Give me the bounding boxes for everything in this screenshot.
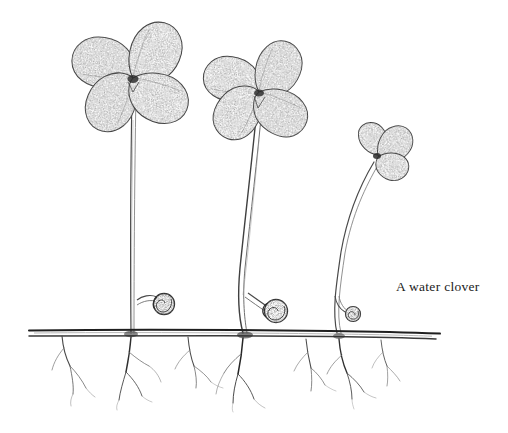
rhizome bbox=[29, 330, 440, 339]
root-cluster-6 bbox=[327, 339, 376, 409]
plant-large bbox=[66, 13, 197, 333]
plant-medium-leaf bbox=[198, 33, 316, 148]
plant-medium bbox=[198, 33, 316, 333]
root-cluster-4 bbox=[216, 338, 265, 412]
figure-caption: A water clover bbox=[396, 279, 480, 295]
roots bbox=[52, 336, 400, 412]
drawing-ink bbox=[29, 13, 440, 412]
root-cluster-2 bbox=[117, 337, 161, 410]
fiddlehead-left bbox=[137, 294, 175, 315]
fiddlehead-middle bbox=[245, 293, 288, 323]
plant-small-leaf bbox=[354, 118, 420, 186]
plant-medium-petiole bbox=[239, 108, 262, 333]
root-cluster-3 bbox=[175, 337, 223, 388]
illustration-page: A water clover bbox=[0, 0, 508, 433]
root-cluster-7 bbox=[372, 340, 400, 386]
plant-large-petiole bbox=[131, 92, 136, 333]
plant-small bbox=[335, 118, 420, 333]
water-clover-illustration bbox=[0, 0, 508, 433]
root-cluster-1 bbox=[52, 336, 95, 406]
root-cluster-5 bbox=[294, 339, 336, 391]
